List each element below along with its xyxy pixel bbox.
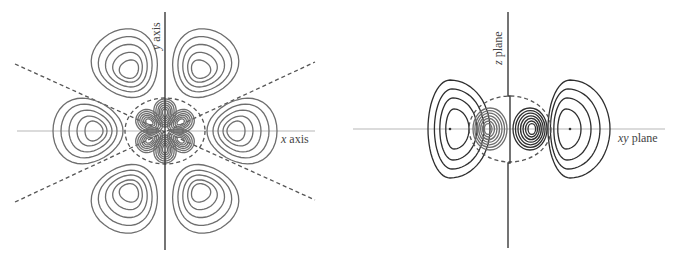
right-panel-z-contours: z plane xy plane [353,12,665,248]
orbital-contour-figure: y axis x axis z plane xy plane [0,0,681,269]
outer-lobe-contour [119,60,138,78]
outer-lobe-contour [192,184,211,202]
nucleus-dot-right [569,128,572,131]
outer-lobe-contour [119,184,138,202]
y-axis-label: y axis [149,22,163,51]
outer-lobe-contour [106,175,148,218]
x-axis-label: x axis [280,132,309,146]
outer-lobe-contour [106,45,148,88]
outer-lobe-contour [192,60,211,78]
z-plane-label: z plane [491,31,505,66]
left-panel-xy-contours: y axis x axis [15,12,315,250]
nucleus-dot-left [449,128,452,131]
xy-plane-label: xy plane [617,131,658,145]
outer-lobe-contour [183,175,225,218]
outer-lobe-contour [183,45,225,88]
z-plane-line [508,12,510,248]
